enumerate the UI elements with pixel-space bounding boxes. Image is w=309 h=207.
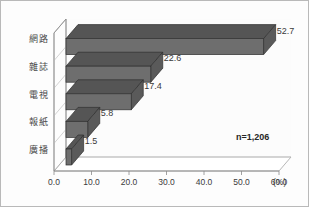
plot-left-wall [54,19,66,171]
value-label-4: 1.5 [85,136,98,146]
category-label-4: 廣播 [11,143,49,156]
bar-0 [66,25,276,55]
x-tick-label-0: 0.0 [41,177,67,187]
x-tick-label-2: 20.0 [116,177,142,187]
x-tick-label-4: 40.0 [191,177,217,187]
x-tick-label-3: 30.0 [154,177,180,187]
value-label-2: 17.4 [144,81,162,91]
category-label-2: 電視 [11,88,49,101]
sample-size-annotation: n=1,206 [236,132,269,142]
plot-floor [54,157,291,171]
x-tick-label-5: 50.0 [229,177,255,187]
bar-2 [66,80,143,110]
x-tick-label-1: 10.0 [79,177,105,187]
category-label-0: 網路 [11,32,49,45]
value-label-0: 52.7 [277,26,295,36]
x-tick-marks [54,171,279,175]
value-label-1: 22.6 [164,53,182,63]
bar-1 [66,52,163,82]
value-label-3: 5.8 [101,108,114,118]
category-label-1: 雜誌 [11,60,49,73]
category-label-3: 報紙 [11,115,49,128]
chart-figure: 網路 雜誌 電視 報紙 廣播 52.722.617.45.81.5 0.010.… [0,0,309,207]
x-axis-unit-label: (%) [273,177,286,187]
